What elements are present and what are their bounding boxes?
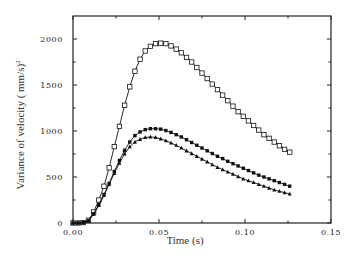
open-square-marker [272, 140, 276, 144]
open-square-marker [138, 57, 142, 61]
filled-square-marker [205, 149, 208, 152]
open-square-marker [143, 49, 147, 53]
open-square-marker [164, 41, 168, 45]
open-square-marker [189, 60, 193, 64]
y-axis-title-superscript: 2 [14, 60, 22, 64]
filled-square-marker [175, 133, 178, 136]
open-square-marker [169, 44, 173, 48]
open-square-marker [153, 41, 157, 45]
filled-square-marker [226, 160, 229, 163]
filled-square-marker [195, 144, 198, 147]
x-axis-title: Time (s) [166, 234, 204, 247]
axis-ticks [73, 16, 331, 223]
y-tick-label: 2000 [40, 35, 63, 44]
series-open-square [71, 41, 292, 225]
y-axis-title-text: Variance of velocity ( mm/s) [14, 63, 27, 189]
filled-square-marker [283, 183, 286, 186]
filled-square-marker [247, 169, 250, 172]
open-square-marker [210, 82, 214, 86]
open-square-marker [241, 114, 245, 118]
open-square-marker [236, 109, 240, 113]
open-square-marker [215, 87, 219, 91]
open-square-marker [179, 51, 183, 55]
open-square-marker [128, 85, 132, 89]
filled-square-marker [273, 179, 276, 182]
series-filled-triangle [71, 135, 292, 225]
series-layer [71, 41, 292, 225]
open-square-marker [231, 104, 235, 108]
open-square-marker [200, 71, 204, 75]
filled-square-marker [169, 131, 172, 134]
filled-square-marker [242, 167, 245, 170]
filled-square-marker [288, 185, 291, 188]
filled-square-marker [144, 128, 147, 131]
open-square-marker [159, 41, 163, 45]
filled-square-marker [159, 127, 162, 130]
open-square-marker [262, 132, 266, 136]
x-tick-label: 0.10 [235, 228, 255, 237]
filled-square-marker [262, 175, 265, 178]
open-square-marker [102, 184, 106, 188]
filled-square-marker [216, 155, 219, 158]
filled-square-marker [211, 152, 214, 155]
open-square-marker [251, 123, 255, 127]
open-square-marker [148, 44, 152, 48]
x-tick-label: 0.15 [321, 228, 341, 237]
filled-square-marker [236, 164, 239, 167]
y-tick-label: 500 [46, 173, 63, 182]
open-square-marker [267, 136, 271, 140]
filled-square-marker [231, 162, 234, 165]
open-square-marker [133, 69, 137, 73]
line-chart: 0.000.050.100.150500100015002000 Time (s… [0, 0, 357, 265]
y-axis-title: Variance of velocity ( mm/s)2 [14, 60, 27, 190]
open-square-marker [257, 128, 261, 132]
tick-labels: 0.000.050.100.150500100015002000 [40, 35, 341, 237]
filled-square-marker [257, 173, 260, 176]
filled-square-marker [154, 127, 157, 130]
open-square-marker [112, 144, 116, 148]
y-tick-label: 1500 [40, 81, 63, 90]
open-square-marker [174, 47, 178, 51]
series-filled-square [71, 127, 291, 225]
open-square-marker [288, 150, 292, 154]
open-square-marker [195, 65, 199, 69]
y-tick-label: 1000 [40, 127, 63, 136]
open-square-marker [117, 124, 121, 128]
x-tick-label: 0.00 [63, 228, 83, 237]
filled-square-marker [164, 129, 167, 132]
open-square-marker [246, 119, 250, 123]
filled-square-marker [267, 177, 270, 180]
filled-square-marker [149, 127, 152, 130]
filled-square-marker [200, 146, 203, 149]
filled-square-marker [133, 134, 136, 137]
filled-square-marker [252, 171, 255, 174]
filled-square-marker [128, 140, 131, 143]
filled-square-marker [185, 138, 188, 141]
filled-square-marker [221, 157, 224, 160]
filled-square-marker [138, 130, 141, 133]
open-square-marker [122, 103, 126, 107]
open-square-marker [107, 166, 111, 170]
open-square-marker [277, 144, 281, 148]
filled-square-marker [278, 181, 281, 184]
filled-square-marker [190, 141, 193, 144]
filled-square-marker [180, 135, 183, 138]
open-square-marker [220, 93, 224, 97]
y-tick-label: 0 [57, 219, 63, 228]
filled-square-marker [123, 149, 126, 152]
open-square-marker [282, 147, 286, 151]
open-square-marker [205, 76, 209, 80]
open-square-marker [184, 55, 188, 59]
plot-frame [73, 16, 331, 223]
open-square-marker [226, 98, 230, 102]
